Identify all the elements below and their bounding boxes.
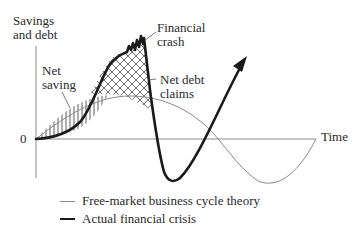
origin-label: 0	[20, 132, 27, 146]
net-saving-label: Net saving	[42, 64, 76, 92]
financial-crash-label: Financial crash	[157, 21, 205, 49]
y-axis-label-line2: and debt	[13, 28, 57, 42]
y-axis-label: Savings and debt	[13, 14, 57, 42]
legend-item-actual-crisis: Actual financial crisis	[60, 211, 196, 227]
financial-crash-line1: Financial	[157, 21, 205, 35]
thin-line-swatch-icon	[60, 201, 75, 202]
x-axis-label: Time	[321, 130, 348, 144]
net-saving-line1: Net	[42, 64, 76, 78]
legend-label: Actual financial crisis	[82, 211, 196, 227]
thick-line-swatch-icon	[60, 218, 75, 221]
net-saving-line2: saving	[42, 78, 76, 92]
arrow-head-icon	[233, 56, 247, 72]
legend-label: Free-market business cycle theory	[82, 193, 260, 209]
y-axis-label-line1: Savings	[13, 14, 57, 28]
financial-crash-line2: crash	[157, 35, 205, 49]
legend-item-free-market: Free-market business cycle theory	[60, 193, 260, 209]
net-saving-leader-line	[62, 92, 70, 108]
net-debt-claims-label: Net debt claims	[160, 73, 204, 101]
net-debt-line2: claims	[160, 87, 204, 101]
crash-leader-line	[145, 32, 156, 40]
net-debt-line1: Net debt	[160, 73, 204, 87]
